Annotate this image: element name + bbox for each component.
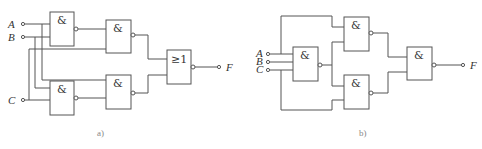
inverter-bubble [432,63,436,67]
inverter-bubble [74,27,78,31]
and-symbol: & [57,83,67,96]
logic-circuits: A B C [0,0,482,149]
inverter-bubble [131,91,135,95]
inverter-bubble [191,65,195,69]
inverter-bubble [74,96,78,100]
gate-b4: & [407,47,436,80]
diagram-a: A B C [7,12,233,138]
and-symbol: & [113,77,123,90]
output-f-terminal [217,65,220,68]
gate-a1: & [50,12,78,46]
input-c-terminal [266,68,269,71]
and-symbol: & [351,19,361,32]
input-a-terminal [21,22,24,25]
and-symbol: & [414,49,424,62]
input-b-terminal [266,60,269,63]
gate-b3: & [344,75,373,109]
and-symbol: & [300,49,310,62]
or-symbol: ≥1 [171,53,187,66]
inverter-bubble [369,91,373,95]
and-symbol: & [113,22,123,35]
and-symbol: & [351,77,361,90]
gate-b2: & [344,17,373,51]
gate-a2: & [106,20,135,53]
input-b-label: B [8,31,15,43]
input-c-label: C [256,63,264,75]
input-a-terminal [266,52,269,55]
inverter-bubble [131,33,135,37]
input-c-terminal [21,98,24,101]
input-c-label: C [8,94,16,106]
diagram-b: A B C [255,16,477,138]
gate-b1: & [293,47,322,81]
input-a-label: A [7,18,15,30]
inverter-bubble [318,63,322,67]
caption-a: a) [97,128,104,138]
input-b-terminal [21,35,24,38]
output-f-terminal [461,63,464,66]
gate-a5-nor: ≥1 [167,50,195,84]
caption-b: b) [359,128,367,138]
gate-a4: & [106,75,135,109]
output-f-label: F [469,59,477,71]
output-f-label: F [225,61,233,73]
inverter-bubble [369,31,373,35]
and-symbol: & [57,14,67,27]
gate-a3: & [50,81,78,115]
